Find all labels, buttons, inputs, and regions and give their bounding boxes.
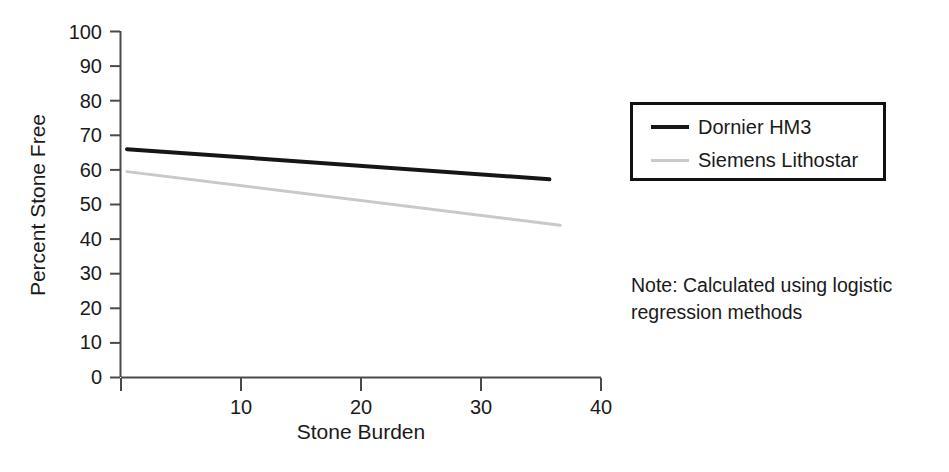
legend: Dornier HM3 Siemens Lithostar [630, 102, 886, 181]
series-line-siemens-lithostar [127, 172, 560, 226]
legend-line-swatch-icon [651, 159, 689, 162]
y-tick-label-100: 100 [48, 21, 102, 44]
y-tick-label-50: 50 [56, 193, 102, 216]
x-tick-label-20: 20 [338, 396, 384, 419]
y-tick-label-60: 60 [56, 159, 102, 182]
chart-note-line: regression methods [631, 299, 931, 326]
y-tick-label-40: 40 [56, 228, 102, 251]
x-tick-label-30: 30 [458, 396, 504, 419]
y-tick-label-80: 80 [56, 90, 102, 113]
chart-note-line: Note: Calculated using logistic [631, 272, 931, 299]
y-tick-label-0: 0 [56, 366, 102, 389]
series-line-dornier-hm3 [127, 149, 549, 179]
legend-item-siemens-lithostar: Siemens Lithostar [651, 146, 858, 174]
y-axis-title: Percent Stone Free [24, 30, 52, 380]
y-tick-label-30: 30 [56, 262, 102, 285]
x-tick-label-10: 10 [218, 396, 264, 419]
x-tick-label-40: 40 [578, 396, 624, 419]
x-axis-ticks [121, 378, 601, 391]
x-axis-title: Stone Burden [121, 420, 601, 444]
legend-item-label: Dornier HM3 [698, 116, 811, 139]
y-tick-label-70: 70 [56, 124, 102, 147]
y-tick-label-10: 10 [56, 331, 102, 354]
legend-line-swatch-icon [651, 125, 689, 129]
legend-item-dornier-hm3: Dornier HM3 [651, 113, 811, 141]
y-tick-label-20: 20 [56, 297, 102, 320]
chart-figure: 0 10 20 30 40 50 60 70 80 90 100 10 20 3… [0, 0, 949, 472]
legend-item-label: Siemens Lithostar [698, 149, 858, 172]
chart-note: Note: Calculated using logistic regressi… [631, 272, 931, 326]
plot-area: 0 10 20 30 40 50 60 70 80 90 100 10 20 3… [0, 0, 640, 472]
y-axis-ticks [110, 32, 120, 378]
y-tick-label-90: 90 [56, 55, 102, 78]
